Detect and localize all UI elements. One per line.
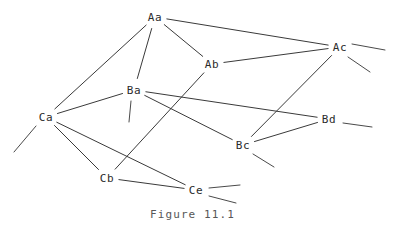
stub-edge-ac-2 (348, 57, 370, 72)
edge-aa-ba (137, 29, 151, 79)
node-aa: Aa (146, 11, 164, 24)
stub-edge-ba-5 (129, 101, 131, 122)
edge-ab-ac (224, 49, 328, 63)
node-ab: Ab (203, 58, 221, 71)
stub-edge-bc-4 (253, 154, 274, 167)
edge-cb-ce (119, 180, 184, 189)
stub-edge-ca-6 (14, 126, 36, 152)
node-bd: Bd (320, 113, 338, 126)
edge-ba-ca (57, 94, 122, 114)
edge-bc-bd (254, 122, 317, 141)
stub-edge-ce-7 (209, 185, 240, 188)
node-ba: Ba (125, 84, 143, 97)
figure-container: AaAbAcBaBcBdCaCbCe Figure 11.1 (0, 0, 401, 238)
node-bc: Bc (234, 139, 252, 152)
stub-edge-ac-1 (352, 44, 385, 50)
node-ac: Ac (331, 41, 349, 54)
diagram-canvas (0, 0, 401, 238)
stub-edge-bd-3 (343, 123, 372, 127)
edge-aa-ab (164, 25, 202, 57)
edge-ca-ce (57, 122, 185, 184)
figure-caption: Figure 11.1 (150, 208, 235, 221)
edges-group (54, 19, 331, 188)
node-cb: Cb (98, 172, 116, 185)
stub-edge-ce-8 (209, 196, 236, 203)
edge-ba-bc (145, 95, 233, 139)
node-ce: Ce (187, 184, 205, 197)
node-ca: Ca (37, 111, 55, 124)
edge-aa-ac (167, 19, 328, 45)
